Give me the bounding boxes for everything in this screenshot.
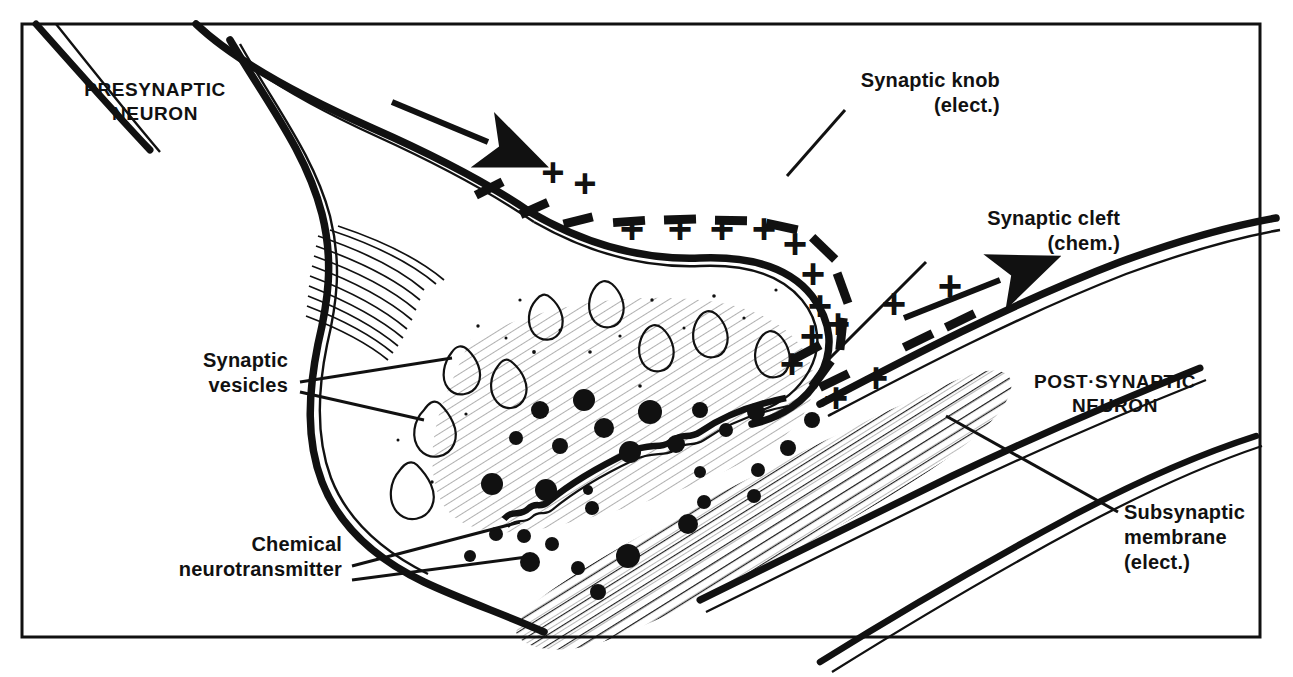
- neurotransmitter-dot: [552, 438, 568, 454]
- label-presynaptic-neuron-line1: PRESYNAPTIC: [60, 78, 250, 102]
- neurotransmitter-dot: [481, 473, 503, 495]
- neurotransmitter-dot: [594, 418, 614, 438]
- neurotransmitter-dot: [638, 400, 662, 424]
- label-synaptic-knob-line1: Synaptic knob: [790, 68, 1000, 93]
- label-synaptic-cleft: Synaptic cleft (chem.): [920, 206, 1120, 256]
- label-synaptic-cleft-line2: (chem.): [920, 231, 1120, 256]
- neurotransmitter-dot: [545, 537, 559, 551]
- plus-sign: +: [780, 340, 805, 387]
- label-presynaptic-neuron-line2: NEURON: [60, 102, 250, 126]
- label-chemical-neurotransmitter: Chemical neurotransmitter: [110, 532, 342, 582]
- label-synaptic-vesicles-line1: Synaptic: [128, 348, 288, 373]
- neurotransmitter-dot: [535, 479, 557, 501]
- arrow-presynaptic: [392, 102, 488, 142]
- neurotransmitter-dot: [694, 466, 706, 478]
- neurotransmitter-dot: [719, 423, 733, 437]
- leader-neurotransmitter-upper: [352, 522, 520, 566]
- plus-sign: +: [573, 161, 596, 205]
- plus-sign: +: [620, 205, 645, 252]
- neurotransmitter-dot: [590, 584, 606, 600]
- label-postsynaptic-neuron: POST·SYNAPTIC NEURON: [1010, 370, 1220, 418]
- label-synaptic-vesicles: Synaptic vesicles: [128, 348, 288, 398]
- vesicle: [391, 462, 434, 519]
- neurotransmitter-dot: [780, 440, 796, 456]
- plus-sign: +: [668, 205, 693, 252]
- neurotransmitter-dot: [464, 550, 476, 562]
- neurotransmitter-dot: [616, 544, 640, 568]
- neurotransmitter-dot: [517, 529, 531, 543]
- neurotransmitter-dot: [520, 552, 540, 572]
- label-subsynaptic-membrane: Subsynaptic membrane (elect.): [1124, 500, 1293, 575]
- minus-sign: [715, 216, 747, 226]
- label-subsynaptic-membrane-line3: (elect.): [1124, 550, 1293, 575]
- neurotransmitter-dot: [697, 495, 711, 509]
- neurotransmitter-dot: [585, 501, 599, 515]
- neurotransmitter-dot: [804, 412, 820, 428]
- label-chemical-neurotransmitter-line2: neurotransmitter: [110, 557, 342, 582]
- label-subsynaptic-membrane-line2: membrane: [1124, 525, 1293, 550]
- minus-sign: [562, 212, 593, 228]
- plus-sign: +: [710, 205, 735, 252]
- neurotransmitter-dot: [509, 431, 523, 445]
- label-presynaptic-neuron: PRESYNAPTIC NEURON: [60, 78, 250, 126]
- neurotransmitter-dot: [619, 441, 641, 463]
- label-postsynaptic-neuron-line1: POST·SYNAPTIC: [1010, 370, 1220, 394]
- label-synaptic-vesicles-line2: vesicles: [128, 373, 288, 398]
- neurotransmitter-dot: [667, 435, 685, 453]
- label-subsynaptic-membrane-line1: Subsynaptic: [1124, 500, 1293, 525]
- minus-sign: [664, 214, 696, 224]
- neurotransmitter-dot: [678, 514, 698, 534]
- neurotransmitter-dot: [747, 489, 761, 503]
- label-postsynaptic-neuron-line2: NEURON: [1010, 394, 1220, 418]
- neurotransmitter-dot: [571, 561, 585, 575]
- plus-sign: +: [864, 354, 889, 401]
- figure-canvas: + + + + + + + + + + + +: [0, 0, 1293, 677]
- label-chemical-neurotransmitter-line1: Chemical: [110, 532, 342, 557]
- neurotransmitter-dot: [692, 402, 708, 418]
- leader-synaptic-knob: [787, 110, 845, 176]
- leader-vesicles-lower: [300, 392, 424, 420]
- charge-plus-presynaptic-upper: + + +: [497, 130, 596, 205]
- neurotransmitter-dot: [751, 463, 765, 477]
- plus-sign: +: [497, 130, 520, 174]
- label-synaptic-knob: Synaptic knob (elect.): [790, 68, 1000, 118]
- label-synaptic-knob-line2: (elect.): [790, 93, 1000, 118]
- label-synaptic-cleft-line1: Synaptic cleft: [920, 206, 1120, 231]
- neurotransmitter-dot: [747, 403, 765, 421]
- neurotransmitter-dot: [573, 389, 595, 411]
- impulse-arrows: [392, 102, 1000, 318]
- neurotransmitter-dot: [583, 485, 593, 495]
- neurotransmitter-dot: [531, 401, 549, 419]
- plus-sign: +: [541, 150, 564, 194]
